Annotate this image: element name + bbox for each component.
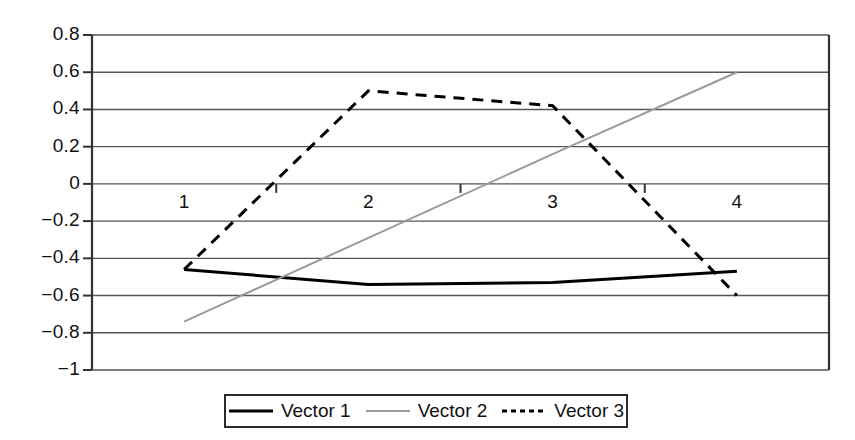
legend-item-2[interactable]: Vector 2: [358, 400, 495, 422]
y-tick-label-9: −1: [6, 358, 80, 380]
y-tick-label-3: 0.2: [6, 135, 80, 157]
legend-swatch-1: [228, 405, 274, 417]
y-tick-label-2: 0.4: [6, 97, 80, 119]
legend-label-1: Vector 1: [281, 400, 351, 422]
y-axis-ticks: [83, 35, 92, 370]
series-line-3: [184, 91, 737, 296]
y-tick-label-5: −0.2: [6, 209, 80, 231]
x-tick-label-2: 2: [338, 191, 398, 213]
legend-label-3: Vector 3: [554, 400, 624, 422]
y-tick-label-1: 0.6: [6, 60, 80, 82]
legend-item-1[interactable]: Vector 1: [221, 400, 358, 422]
series-line-1: [184, 270, 737, 285]
legend-label-2: Vector 2: [418, 400, 488, 422]
y-tick-label-8: −0.8: [6, 321, 80, 343]
legend-item-3[interactable]: Vector 3: [494, 400, 631, 422]
chart-legend: Vector 1Vector 2Vector 3: [224, 394, 628, 428]
x-tick-label-4: 4: [707, 191, 767, 213]
y-tick-label-7: −0.6: [6, 284, 80, 306]
chart-container: 0.80.60.40.20−0.2−0.4−0.6−0.8−1 1234 Vec…: [0, 0, 855, 440]
x-tick-label-1: 1: [154, 191, 214, 213]
y-tick-label-4: 0: [6, 172, 80, 194]
chart-plot-area: [0, 0, 855, 440]
legend-swatch-2: [365, 405, 411, 417]
x-tick-label-3: 3: [523, 191, 583, 213]
y-tick-label-0: 0.8: [6, 23, 80, 45]
y-tick-label-6: −0.4: [6, 246, 80, 268]
legend-swatch-3: [501, 405, 547, 417]
